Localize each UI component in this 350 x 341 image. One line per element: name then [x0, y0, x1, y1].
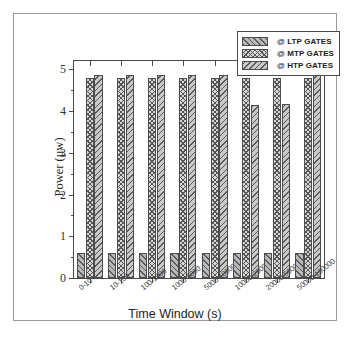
bar-ltp [170, 253, 178, 278]
legend-swatch-mtp-icon [242, 49, 268, 58]
bar-mtp [117, 78, 125, 278]
bar-htp [94, 75, 102, 278]
legend-item: @ MTP GATES [242, 48, 334, 59]
bar-mtp [86, 78, 94, 278]
x-axis-title: Time Window (s) [14, 307, 336, 321]
bar-mtp [211, 78, 219, 278]
y-axis-tick [69, 111, 74, 112]
bar-mtp [179, 78, 187, 278]
y-axis-minor-tick [71, 174, 74, 175]
y-axis-tick-label: 1 [60, 229, 66, 244]
bar-ltp [77, 253, 85, 278]
legend-label: @ MTP GATES [277, 49, 334, 58]
bar-htp [219, 75, 227, 278]
x-axis-top-tick [183, 61, 184, 66]
x-axis-top-tick [121, 61, 122, 66]
bar-htp [188, 75, 196, 278]
y-axis-minor-tick [71, 215, 74, 216]
y-axis-tick [69, 278, 74, 279]
legend-item: @ HTP GATES [242, 60, 334, 71]
bar-ltp [295, 253, 303, 278]
y-axis-minor-tick [71, 257, 74, 258]
bar-htp [282, 104, 290, 278]
y-axis-minor-tick [71, 132, 74, 133]
bar-mtp [242, 78, 250, 278]
y-axis-tick [69, 236, 74, 237]
legend-swatch-ltp-icon [242, 37, 268, 46]
y-axis-tick [69, 153, 74, 154]
legend-swatch-htp-icon [242, 61, 268, 70]
bar-htp [251, 105, 259, 278]
y-axis-tick-label: 5 [60, 62, 66, 77]
y-axis-tick-label: 0 [60, 271, 66, 286]
y-axis-minor-tick [71, 90, 74, 91]
y-axis-tick-label: 4 [60, 104, 66, 119]
bar-ltp [233, 253, 241, 278]
y-axis-tick-label: 3 [60, 145, 66, 160]
legend-item: @ LTP GATES [242, 36, 334, 47]
y-axis-tick [69, 195, 74, 196]
x-axis-top-tick [215, 61, 216, 66]
bar-mtp [304, 78, 312, 278]
bar-htp [157, 75, 165, 278]
x-axis-top-tick [90, 61, 91, 66]
y-axis-tick [69, 69, 74, 70]
legend-label: @ HTP GATES [277, 61, 333, 70]
bar-ltp [202, 253, 210, 278]
bar-ltp [264, 253, 272, 278]
chart-legend: @ LTP GATES @ MTP GATES @ HTP GATES [237, 31, 340, 76]
bar-htp [313, 74, 321, 278]
bar-mtp [273, 78, 281, 278]
bar-mtp [148, 78, 156, 278]
bar-htp [126, 75, 134, 278]
bar-ltp [108, 253, 116, 278]
legend-label: @ LTP GATES [277, 37, 332, 46]
plot-area: 0123450-1010-100100-10001000-50005000-10… [73, 60, 325, 279]
x-axis-tick-label: 0-10 [77, 276, 94, 292]
x-axis-top-tick [152, 61, 153, 66]
figure-frame: Power (μw) 0123450-1010-100100-10001000-… [13, 13, 337, 321]
bar-ltp [139, 253, 147, 278]
y-axis-tick-label: 2 [60, 187, 66, 202]
